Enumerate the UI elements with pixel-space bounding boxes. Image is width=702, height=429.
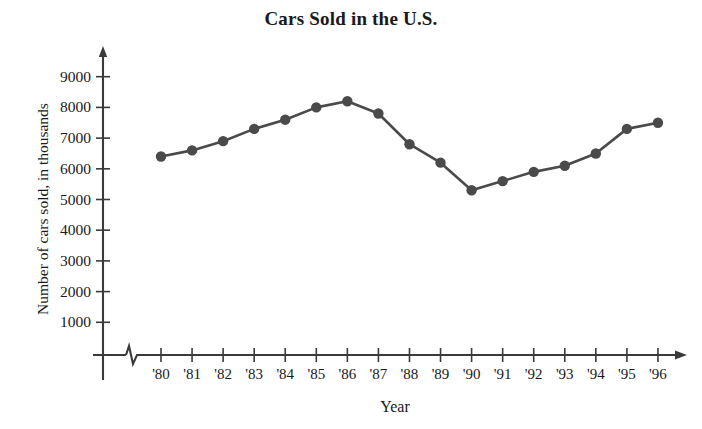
data-point-marker[interactable] xyxy=(187,145,197,155)
plot-area xyxy=(0,0,702,429)
data-point-marker[interactable] xyxy=(653,118,663,128)
data-point-marker[interactable] xyxy=(622,124,632,134)
data-point-marker[interactable] xyxy=(342,96,352,106)
data-point-marker[interactable] xyxy=(497,176,507,186)
chart-container: Cars Sold in the U.S. Number of cars sol… xyxy=(0,0,702,429)
axes xyxy=(93,46,687,380)
x-axis-break-symbol xyxy=(126,346,138,364)
data-point-marker[interactable] xyxy=(249,124,259,134)
y-axis-arrowhead xyxy=(99,46,107,57)
data-point-marker[interactable] xyxy=(560,161,570,171)
data-point-marker[interactable] xyxy=(466,185,476,195)
x-axis-arrowhead xyxy=(675,351,687,360)
data-point-marker[interactable] xyxy=(311,102,321,112)
data-point-marker[interactable] xyxy=(435,157,445,167)
data-point-marker[interactable] xyxy=(529,167,539,177)
data-point-marker[interactable] xyxy=(404,139,414,149)
data-point-marker[interactable] xyxy=(373,108,383,118)
data-series xyxy=(156,96,663,195)
data-point-marker[interactable] xyxy=(156,151,166,161)
data-point-marker[interactable] xyxy=(591,148,601,158)
data-point-marker[interactable] xyxy=(218,136,228,146)
data-point-marker[interactable] xyxy=(280,114,290,124)
